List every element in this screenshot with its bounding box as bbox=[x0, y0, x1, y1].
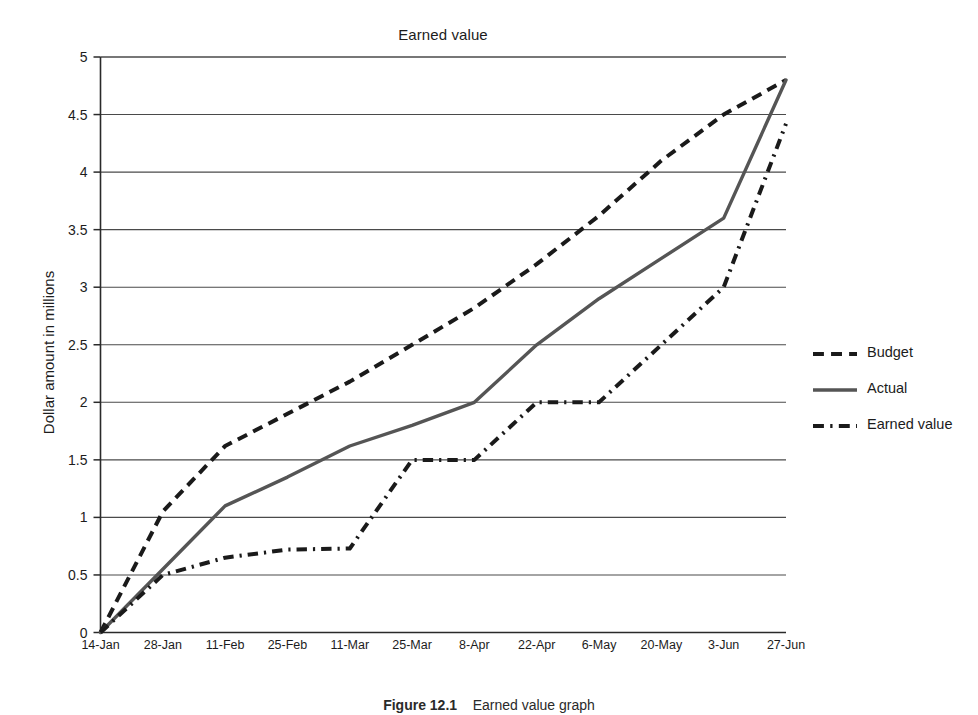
y-tick-label: 2.5 bbox=[44, 338, 88, 352]
legend-item-budget[interactable]: Budget bbox=[812, 334, 952, 370]
series-line-actual bbox=[101, 80, 787, 633]
series-paths bbox=[101, 80, 787, 633]
legend-item-actual[interactable]: Actual bbox=[812, 370, 952, 406]
legend-label: Actual bbox=[867, 380, 907, 396]
series-line-budget bbox=[101, 80, 787, 633]
y-tick-marks bbox=[94, 57, 101, 633]
y-tick-label: 3.5 bbox=[44, 223, 88, 237]
gridlines bbox=[101, 57, 787, 575]
figure-caption: Figure 12.1 Earned value graph bbox=[0, 697, 978, 713]
y-tick-label: 0.5 bbox=[44, 568, 88, 582]
x-tick-label: 3-Jun bbox=[708, 638, 739, 652]
earned-value-figure: Earned value Dollar amount in millions 0… bbox=[0, 0, 978, 715]
x-tick-label: 25-Mar bbox=[392, 638, 432, 652]
legend-swatch-dash-dot-icon bbox=[812, 418, 858, 430]
y-tick-label: 4 bbox=[44, 165, 88, 179]
x-tick-label: 8-Apr bbox=[459, 638, 490, 652]
y-tick-label: 2 bbox=[44, 395, 88, 409]
legend-label: Earned value bbox=[867, 416, 952, 432]
figure-caption-number: Figure 12.1 bbox=[383, 697, 457, 713]
y-tick-label: 4.5 bbox=[44, 108, 88, 122]
x-tick-label: 6-May bbox=[582, 638, 617, 652]
chart-legend: BudgetActualEarned value bbox=[812, 334, 952, 442]
y-tick-label: 5 bbox=[44, 50, 88, 64]
x-tick-label: 14-Jan bbox=[81, 638, 119, 652]
y-tick-label: 1 bbox=[44, 510, 88, 524]
x-tick-label: 28-Jan bbox=[144, 638, 182, 652]
legend-item-earned-value[interactable]: Earned value bbox=[812, 406, 952, 442]
figure-caption-text: Earned value graph bbox=[473, 697, 595, 713]
legend-swatch-dashed-icon bbox=[812, 346, 858, 358]
legend-swatch-solid-icon bbox=[812, 382, 858, 394]
legend-label: Budget bbox=[867, 344, 913, 360]
y-tick-label: 3 bbox=[44, 280, 88, 294]
figure-caption-separator bbox=[461, 697, 469, 713]
x-tick-label: 27-Jun bbox=[767, 638, 805, 652]
x-tick-label: 20-May bbox=[641, 638, 683, 652]
y-tick-label: 1.5 bbox=[44, 453, 88, 467]
x-tick-label: 11-Mar bbox=[330, 638, 369, 652]
x-tick-label: 22-Apr bbox=[518, 638, 556, 652]
x-tick-label: 25-Feb bbox=[268, 638, 308, 652]
series-line-earned-value bbox=[101, 124, 787, 633]
x-tick-label: 11-Feb bbox=[206, 638, 245, 652]
